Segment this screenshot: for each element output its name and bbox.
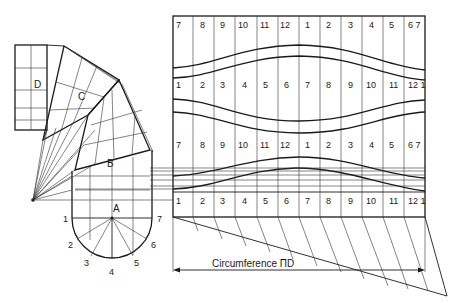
svg-text:5: 5 bbox=[389, 20, 394, 30]
svg-text:12: 12 bbox=[280, 20, 290, 30]
svg-text:10: 10 bbox=[366, 80, 376, 90]
point-1: 1 bbox=[63, 214, 68, 224]
circumference-label: Circumference ΠD bbox=[212, 258, 294, 269]
svg-text:6 7: 6 7 bbox=[408, 20, 421, 30]
point-2: 2 bbox=[68, 240, 73, 250]
svg-text:3: 3 bbox=[220, 80, 225, 90]
svg-text:3: 3 bbox=[220, 196, 225, 206]
point-6: 6 bbox=[151, 240, 156, 250]
svg-text:4: 4 bbox=[242, 80, 247, 90]
column-lines bbox=[193, 16, 404, 217]
svg-text:6: 6 bbox=[284, 80, 289, 90]
point-3: 3 bbox=[84, 258, 89, 268]
elbow-development-diagram: 7 8 9 10 11 12 1 2 3 4 5 6 7 1 2 3 4 5 6… bbox=[0, 0, 456, 303]
svg-text:9: 9 bbox=[220, 140, 225, 150]
svg-text:4: 4 bbox=[242, 196, 247, 206]
segment-label-b: B bbox=[107, 158, 114, 169]
svg-text:10: 10 bbox=[238, 140, 248, 150]
svg-text:2: 2 bbox=[200, 80, 205, 90]
row-labels: 7 8 9 10 11 12 1 2 3 4 5 6 7 1 2 3 4 5 6… bbox=[176, 20, 426, 206]
svg-text:9: 9 bbox=[348, 80, 353, 90]
elbow-elevation: D C B A 1 2 3 4 5 6 7 bbox=[15, 45, 173, 277]
projector-lines bbox=[75, 168, 425, 189]
svg-text:4: 4 bbox=[369, 20, 374, 30]
svg-text:2: 2 bbox=[326, 20, 331, 30]
svg-text:6 7: 6 7 bbox=[408, 140, 421, 150]
svg-text:8: 8 bbox=[200, 20, 205, 30]
svg-text:1: 1 bbox=[176, 80, 181, 90]
svg-text:10: 10 bbox=[366, 196, 376, 206]
svg-text:11: 11 bbox=[389, 80, 398, 90]
svg-text:6: 6 bbox=[284, 196, 289, 206]
segment-label-d: D bbox=[34, 79, 41, 90]
svg-text:2: 2 bbox=[200, 196, 205, 206]
svg-text:2: 2 bbox=[326, 140, 331, 150]
segment-label-a: A bbox=[113, 203, 120, 214]
row-4-labels: 1 2 3 4 5 6 7 8 9 10 11 12 1 bbox=[176, 196, 426, 206]
svg-text:8: 8 bbox=[326, 80, 331, 90]
svg-text:11: 11 bbox=[260, 140, 269, 150]
svg-text:3: 3 bbox=[348, 140, 353, 150]
point-7: 7 bbox=[157, 214, 162, 224]
girth-triangle bbox=[173, 217, 447, 296]
svg-text:12 1: 12 1 bbox=[408, 80, 426, 90]
svg-text:11: 11 bbox=[260, 20, 269, 30]
svg-text:7: 7 bbox=[305, 80, 310, 90]
segment-label-c: C bbox=[78, 91, 85, 102]
svg-text:3: 3 bbox=[348, 20, 353, 30]
row-1-labels: 7 8 9 10 11 12 1 2 3 4 5 6 7 bbox=[176, 20, 421, 30]
row-3-labels: 7 8 9 10 11 12 1 2 3 4 5 6 7 bbox=[176, 140, 421, 150]
point-4: 4 bbox=[109, 267, 114, 277]
svg-text:5: 5 bbox=[263, 80, 268, 90]
svg-text:7: 7 bbox=[305, 196, 310, 206]
svg-text:11: 11 bbox=[389, 196, 398, 206]
svg-text:1: 1 bbox=[176, 196, 181, 206]
development-grid bbox=[173, 16, 425, 217]
svg-text:8: 8 bbox=[200, 140, 205, 150]
svg-text:7: 7 bbox=[176, 140, 181, 150]
svg-text:9: 9 bbox=[348, 196, 353, 206]
svg-text:8: 8 bbox=[326, 196, 331, 206]
svg-text:1: 1 bbox=[305, 20, 310, 30]
svg-text:5: 5 bbox=[389, 140, 394, 150]
svg-text:7: 7 bbox=[176, 20, 181, 30]
svg-text:5: 5 bbox=[263, 196, 268, 206]
svg-text:12 1: 12 1 bbox=[408, 196, 426, 206]
point-5: 5 bbox=[134, 258, 139, 268]
svg-text:12: 12 bbox=[280, 140, 290, 150]
svg-text:4: 4 bbox=[369, 140, 374, 150]
svg-text:10: 10 bbox=[238, 20, 248, 30]
svg-text:1: 1 bbox=[305, 140, 310, 150]
circumference-dimension: Circumference ΠD bbox=[173, 258, 425, 273]
row-2-labels: 1 2 3 4 5 6 7 8 9 10 11 12 1 bbox=[176, 80, 426, 90]
svg-text:9: 9 bbox=[220, 20, 225, 30]
